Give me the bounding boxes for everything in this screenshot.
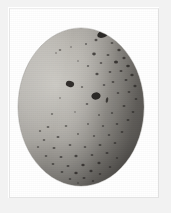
egg-speckle [112,81,115,83]
egg-speckle [114,142,117,144]
egg-speckle [97,162,100,164]
egg-speckle [70,46,72,48]
egg-speckle [102,125,104,127]
egg-speckle [98,114,100,116]
egg-speckle [92,53,96,56]
egg-speckle [74,111,76,113]
egg-speckle [59,49,62,51]
egg-speckle [39,130,41,132]
egg-speckle [59,97,61,99]
egg-speckle [100,62,103,64]
egg-speckle [120,70,123,72]
egg-speckle [60,156,63,158]
egg-speckle [109,71,112,73]
egg-speckle [117,49,120,52]
egg-speckle [99,173,102,175]
egg-speckle [103,84,106,86]
egg-illustration [9,8,159,198]
egg-speckle [108,134,111,136]
egg-speckle [87,123,89,125]
egg-speckle [69,144,72,146]
egg-speckle [123,105,126,107]
egg-speckle [107,54,110,56]
egg-speckle [85,43,87,45]
egg-speckle [121,131,124,133]
egg-bottom-shade [18,28,144,186]
egg-speckle [51,113,53,115]
egg-speckle [99,144,102,146]
egg-speckle [65,125,68,127]
egg-speckle [116,123,119,125]
egg-speckle [111,42,114,44]
egg-speckle [114,61,118,64]
egg-speckle [132,111,135,113]
egg-speckle [106,152,109,154]
egg-speckle [53,147,56,149]
egg-photograph [9,8,159,198]
egg-speckle [52,163,55,165]
egg-speckle [126,65,130,68]
egg-speckle [127,119,130,121]
egg-speckle [61,171,64,173]
egg-speckle [37,146,39,148]
egg-speckle [55,52,57,54]
egg-speckle [125,79,128,81]
egg-speckle [74,155,77,157]
egg-speckle [87,65,89,67]
egg-speckle [109,166,112,168]
egg-speckle [95,73,98,75]
egg-speckle [95,39,98,41]
egg-speckle [89,170,92,172]
egg-speckle [47,126,50,128]
egg-speckle [69,178,72,180]
egg-speckle [135,98,138,100]
egg-speckle [77,60,79,62]
egg-speckle [81,164,84,167]
egg-speckle [84,146,87,148]
egg-speckle [77,182,79,184]
egg-speckle [93,135,95,137]
photo-plate [0,0,171,213]
egg-speckle [81,86,83,88]
egg-speckle [133,85,136,87]
egg-speckle [111,112,113,114]
egg-speckle [86,103,89,105]
egg-speckle [91,154,94,156]
egg-speckle [83,177,86,179]
egg-speckle [77,133,79,135]
egg-speckle [122,57,125,59]
egg-speckle [92,180,94,182]
egg-speckle [43,139,46,141]
egg-speckle [116,157,118,159]
egg-speckle [67,165,70,167]
egg-speckle [117,92,120,94]
egg-speckle [128,91,131,93]
egg-speckle [130,74,133,76]
egg-speckle [74,172,77,175]
egg-speckle [57,136,60,138]
egg-body [18,28,144,186]
egg-speckle [45,155,48,157]
